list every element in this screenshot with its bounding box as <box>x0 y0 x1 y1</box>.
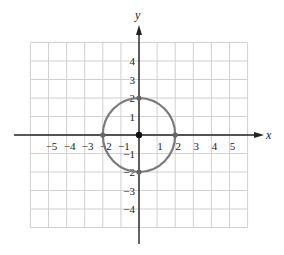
x-tick-label: 1 <box>157 140 163 152</box>
x-tick-label: 4 <box>212 140 218 152</box>
y-tick-label: −1 <box>123 148 135 160</box>
intercept-point <box>173 132 178 137</box>
intercept-point <box>100 132 105 137</box>
y-axis-label: y <box>134 8 141 22</box>
x-tick-label: −3 <box>82 140 94 152</box>
y-tick-label: 4 <box>130 55 136 67</box>
x-axis-arrow-icon <box>254 132 264 138</box>
intercept-point <box>136 169 141 174</box>
y-tick-label: 1 <box>130 111 136 123</box>
x-tick-label: 5 <box>230 140 236 152</box>
x-tick-label: −5 <box>46 140 58 152</box>
y-tick-label: 3 <box>130 74 136 86</box>
x-axis-label: x <box>265 128 272 142</box>
y-axis-arrow-icon <box>136 25 142 35</box>
x-tick-label: 2 <box>175 140 181 152</box>
x-tick-label: −4 <box>64 140 76 152</box>
intercept-point <box>136 95 141 100</box>
y-tick-label: −4 <box>123 203 135 215</box>
origin-point <box>136 132 142 138</box>
coordinate-plane: xy −5−4−3−2−1123454321−1−2−3−4 <box>0 0 284 255</box>
x-tick-label: 3 <box>194 140 200 152</box>
y-tick-label: −3 <box>123 185 135 197</box>
